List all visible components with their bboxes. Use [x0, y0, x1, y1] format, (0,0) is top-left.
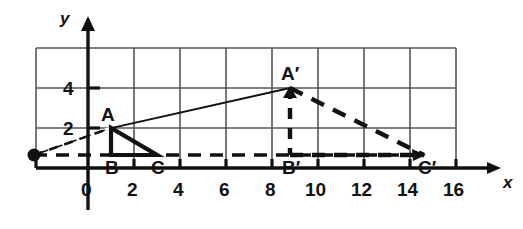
x-axis-label: x — [503, 174, 512, 191]
ray-arrowheads — [283, 86, 426, 161]
y-axis-arrow — [81, 16, 95, 31]
y-axis-ticks — [88, 88, 100, 128]
x-axis-arrow — [487, 162, 501, 174]
dilation-diagram: y x 2 4 0 2 4 6 8 10 12 14 16 A B C A′ B… — [0, 0, 523, 229]
center-of-dilation-dot — [28, 149, 41, 162]
segment-Aprime-Cprime — [290, 88, 424, 155]
vertex-label-B-prime: B′ — [282, 158, 300, 177]
x-tick-label-8: 8 — [265, 180, 276, 199]
x-tick-label-0: 0 — [81, 180, 92, 199]
x-tick-label-6: 6 — [219, 180, 230, 199]
y-tick-label-4: 4 — [63, 79, 74, 98]
y-axis-label: y — [60, 10, 69, 27]
vertex-label-A: A — [101, 105, 115, 124]
x-tick-label-4: 4 — [173, 180, 184, 199]
vertex-label-A-prime: A′ — [281, 64, 299, 83]
triangle-Aprime-Bprime-Cprime — [290, 88, 424, 155]
x-tick-label-14: 14 — [397, 180, 418, 199]
grid-lines — [36, 48, 456, 168]
x-tick-label-16: 16 — [443, 180, 464, 199]
x-tick-label-12: 12 — [351, 180, 372, 199]
y-tick-label-2: 2 — [63, 119, 74, 138]
vertex-label-C-prime: C′ — [418, 158, 436, 177]
x-tick-label-2: 2 — [127, 180, 138, 199]
vertex-label-C: C — [151, 158, 165, 177]
x-tick-label-10: 10 — [305, 180, 326, 199]
vertex-label-B: B — [105, 158, 119, 177]
